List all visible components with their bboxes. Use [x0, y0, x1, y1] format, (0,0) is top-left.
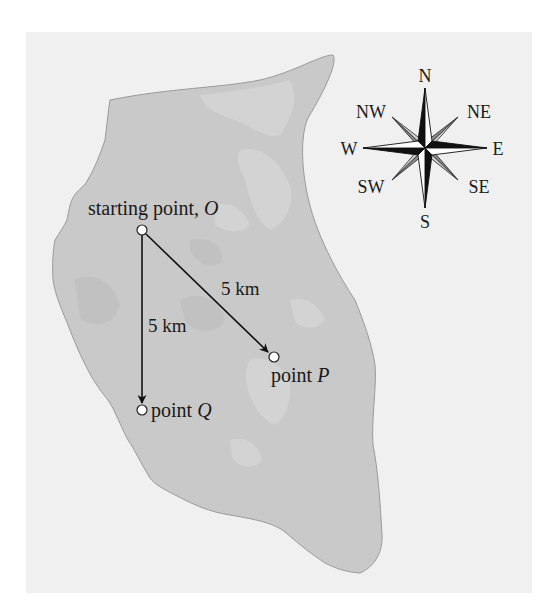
origin-label: starting point, O: [88, 197, 219, 220]
island-map: starting point, O point P point Q 5 km 5…: [0, 0, 555, 614]
point-q-marker: [137, 405, 147, 415]
point-p-marker: [269, 352, 279, 362]
point-q-label: point Q: [151, 399, 212, 422]
distance-oq-label: 5 km: [148, 315, 187, 336]
compass-label-ne: NE: [467, 102, 491, 122]
compass-label-w: W: [341, 139, 358, 159]
compass-label-nw: NW: [356, 102, 386, 122]
compass-label-e: E: [493, 139, 504, 159]
compass-label-se: SE: [468, 177, 489, 197]
compass-label-s: S: [420, 212, 430, 232]
point-p-label: point P: [271, 364, 329, 387]
distance-op-label: 5 km: [221, 278, 260, 299]
compass-label-sw: SW: [358, 177, 385, 197]
origin-point-marker: [137, 225, 147, 235]
compass-label-n: N: [419, 66, 432, 86]
